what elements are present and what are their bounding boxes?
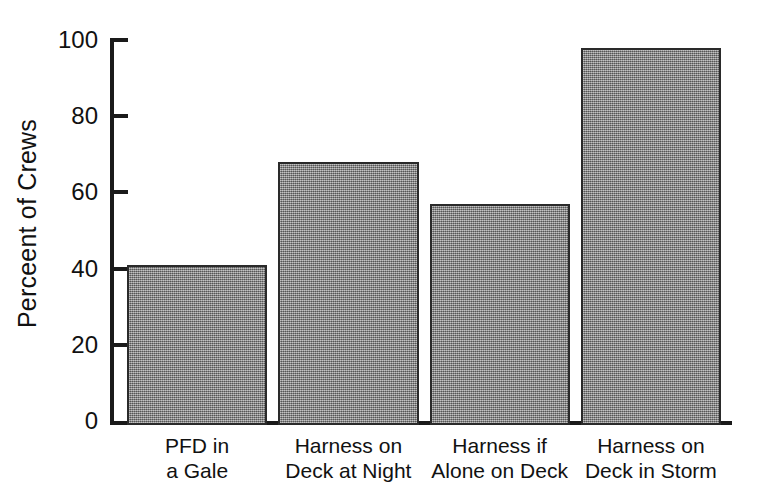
y-axis-tick-label: 100: [42, 28, 98, 52]
plot-area: [110, 40, 732, 425]
x-axis-category-label-line: Harness on: [278, 434, 418, 459]
x-axis-category-label-line: Deck at Night: [278, 459, 418, 484]
bar-chart-figure: Perceent of Crews 020406080100 PFD ina G…: [0, 0, 760, 498]
y-axis-tick-label: 0: [42, 409, 98, 433]
x-axis-category-label: PFD ina Gale: [127, 434, 267, 484]
x-axis-category-label-line: Alone on Deck: [430, 459, 570, 484]
y-axis-tick-label: 20: [42, 333, 98, 357]
x-axis-category-label: Harness onDeck at Night: [278, 434, 418, 484]
y-axis-tick-labels: 020406080100: [42, 0, 98, 498]
x-axis-category-label-line: Harness on: [581, 434, 721, 459]
y-axis-tick-label: 60: [42, 180, 98, 204]
x-axis-category-label-line: Deck in Storm: [581, 459, 721, 484]
x-axis-category-label-line: PFD in: [127, 434, 267, 459]
x-axis-category-label-line: Harness if: [430, 434, 570, 459]
x-axis-category-label: Harness ifAlone on Deck: [430, 434, 570, 484]
x-axis-category-label: Harness onDeck in Storm: [581, 434, 721, 484]
x-axis-category-label-line: a Gale: [127, 459, 267, 484]
bar: [127, 265, 267, 425]
bar: [581, 48, 721, 425]
y-axis-tick-label: 80: [42, 104, 98, 128]
y-axis-title: Perceent of Crews: [14, 118, 43, 327]
bar: [430, 204, 570, 425]
bar: [278, 162, 418, 425]
y-axis-tick-label: 40: [42, 257, 98, 281]
